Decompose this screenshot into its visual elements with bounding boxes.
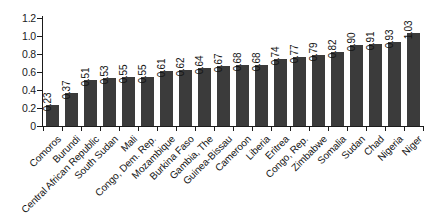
bar-chart: 00.20.40.60.81.01.2 0.230.370.510.530.55… bbox=[0, 0, 435, 222]
x-axis-category-labels: ComorosBurundiCentral African RepublicSo… bbox=[0, 0, 435, 222]
x-axis-category-label: Niger bbox=[400, 134, 424, 158]
